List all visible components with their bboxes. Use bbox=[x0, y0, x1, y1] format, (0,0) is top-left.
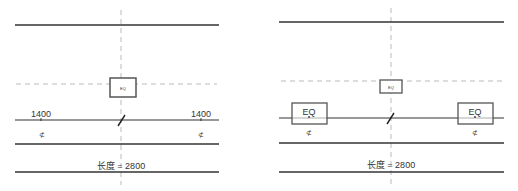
lock-icon[interactable]: ⊄ bbox=[306, 129, 312, 136]
eq-left-label: EQ bbox=[302, 107, 315, 117]
dimension-left[interactable]: 1400 bbox=[31, 109, 51, 119]
length-label: 长度 = 2800 bbox=[367, 159, 415, 170]
left-panel: EQ 1400 1400 ⊄ ⊄ 长度 = 2800 bbox=[15, 10, 219, 185]
center-box-label: EQ bbox=[120, 86, 126, 91]
lock-icon[interactable]: ⊄ bbox=[39, 131, 45, 138]
lock-icon[interactable]: ⊄ bbox=[472, 129, 478, 136]
eq-right-label: EQ bbox=[468, 107, 481, 117]
right-panel: EQ EQ EQ ⊄ ⊄ 长度 = 2800 bbox=[279, 8, 504, 185]
dimension-right[interactable]: 1400 bbox=[191, 109, 211, 119]
diagram-canvas: EQ 1400 1400 ⊄ ⊄ 长度 = 2800 EQ EQ EQ ⊄ ⊄ … bbox=[0, 0, 518, 191]
lock-icon[interactable]: ⊄ bbox=[198, 131, 204, 138]
length-label: 长度 = 2800 bbox=[97, 160, 145, 171]
center-box-label: EQ bbox=[388, 85, 394, 90]
